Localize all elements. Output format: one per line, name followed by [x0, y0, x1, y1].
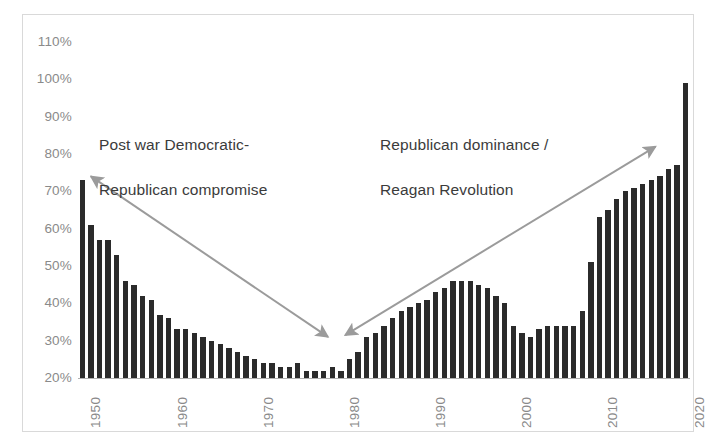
x-axis-tick-label: 2000	[519, 397, 534, 428]
annotation-post-war-compromise: Post war Democratic- Republican compromi…	[99, 112, 267, 224]
annotation-left-line1: Post war Democratic-	[99, 134, 267, 156]
x-axis-tick-label: 1960	[175, 397, 190, 428]
x-axis-tick-label: 1980	[347, 397, 362, 428]
annotation-republican-dominance: Republican dominance / Reagan Revolution	[380, 112, 549, 224]
x-axis-tick-label: 1970	[261, 397, 276, 428]
annotation-right-line1: Republican dominance /	[380, 134, 549, 156]
x-axis-tick-label: 1990	[433, 397, 448, 428]
x-axis-tick-label: 2020	[692, 397, 707, 428]
annotation-left-line2: Republican compromise	[99, 179, 267, 201]
x-axis-tick-label: 2010	[605, 397, 620, 428]
annotation-right-line2: Reagan Revolution	[380, 179, 549, 201]
x-axis-tick-label: 1950	[88, 397, 103, 428]
chart-screenshot: 110%100%90%80%70%60%50%40%30%20% 1950196…	[0, 0, 713, 448]
